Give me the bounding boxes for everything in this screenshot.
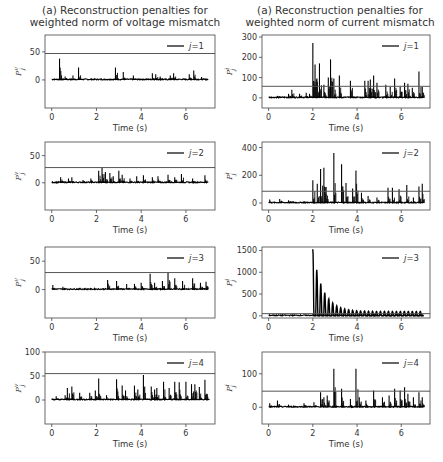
x-tick-label: 0 (266, 429, 271, 438)
legend: j=4 (382, 358, 419, 368)
x-axis-label: Time (s) (328, 439, 364, 449)
y-tick-label: 0 (252, 403, 257, 412)
legend-label: j=4 (403, 358, 419, 368)
y-tick-label: 100 (242, 370, 257, 379)
x-tick-label: 2 (310, 429, 315, 438)
x-tick-label: 6 (399, 429, 404, 438)
plot-data (269, 369, 425, 408)
subplot-svg: 02460100Time (s)Pijj=4 (0, 0, 443, 462)
x-tick-label: 4 (355, 429, 360, 438)
y-axis-label: Pij (223, 384, 237, 392)
